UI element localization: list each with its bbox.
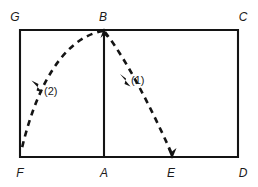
vertex-label-E: E bbox=[167, 166, 176, 180]
trajectory-path-1 bbox=[105, 32, 171, 152]
vertex-label-F: F bbox=[16, 166, 24, 180]
trajectory-diagram-figure: G B C F A E D (1) (2) bbox=[0, 0, 258, 187]
trajectory-1-direction-arrowhead bbox=[120, 74, 131, 87]
vertex-label-D: D bbox=[239, 166, 248, 180]
trajectory-path-2 bbox=[21, 31, 103, 152]
diagram-canvas: G B C F A E D (1) (2) bbox=[0, 0, 258, 187]
vertex-label-B: B bbox=[99, 10, 107, 24]
trajectory-label-2: (2) bbox=[44, 85, 57, 97]
trajectory-label-1: (1) bbox=[131, 74, 144, 86]
vertex-label-G: G bbox=[10, 10, 19, 24]
vertex-label-C: C bbox=[239, 10, 248, 24]
vertex-label-A: A bbox=[99, 166, 108, 180]
